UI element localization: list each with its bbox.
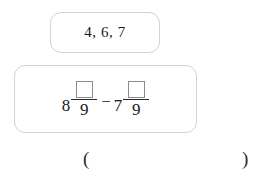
- mixed-number-second: 7 9: [114, 81, 150, 119]
- expression-panel: 8 9 − 7 9: [14, 65, 197, 133]
- numerator-input-first[interactable]: [76, 81, 93, 98]
- math-expression: 8 9 − 7 9: [62, 81, 150, 119]
- minus-operator: −: [101, 93, 111, 110]
- denominator-second: 9: [132, 101, 141, 119]
- numerator-input-second[interactable]: [128, 81, 145, 98]
- close-paren: ): [242, 145, 248, 173]
- denominator-first: 9: [80, 101, 89, 119]
- mixed-number-first: 8 9: [62, 81, 98, 119]
- answer-row: ( ): [0, 145, 259, 173]
- answer-choices-text: 4, 6, 7: [84, 24, 126, 41]
- answer-choices-panel[interactable]: 4, 6, 7: [50, 12, 160, 53]
- answer-input[interactable]: [93, 147, 239, 171]
- open-paren: (: [83, 145, 89, 173]
- fraction-second: 9: [123, 81, 149, 119]
- whole-number-second: 7: [114, 97, 123, 114]
- whole-number-first: 8: [62, 97, 71, 114]
- worksheet-canvas: 4, 6, 7 8 9 − 7 9: [0, 0, 259, 178]
- fraction-first: 9: [71, 81, 97, 119]
